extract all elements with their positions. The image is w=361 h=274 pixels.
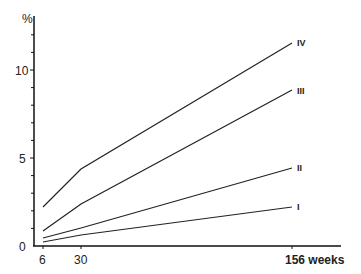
x-tick-label-156-weeks: 156 weeks	[285, 253, 345, 267]
x-tick-label-30: 30	[74, 253, 88, 267]
y-tick-label-0: 0	[19, 240, 26, 254]
series-line-i	[43, 207, 292, 242]
series-label-i: I	[297, 202, 300, 212]
line-chart: % 10 5 0 6 30 156 weeks IV III II I	[0, 0, 361, 274]
series-label-iii: III	[297, 86, 305, 96]
y-tick-label-5: 5	[19, 152, 26, 166]
series-label-ii: II	[297, 163, 302, 173]
x-tick-label-6: 6	[39, 253, 46, 267]
y-tick-label-10: 10	[15, 64, 29, 78]
series-line-ii	[43, 168, 292, 238]
series-line-iii	[43, 90, 292, 231]
series-label-iv: IV	[297, 38, 306, 48]
series-line-iv	[43, 43, 292, 207]
y-unit-label: %	[22, 12, 33, 26]
